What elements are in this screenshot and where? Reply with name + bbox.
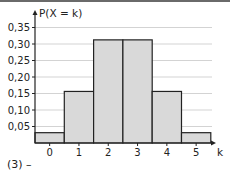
y-tick-label: 0,20 xyxy=(8,72,30,83)
bar-3 xyxy=(123,40,152,143)
y-tick-label: 0,15 xyxy=(8,88,30,99)
caption: (3) – xyxy=(7,158,32,171)
y-axis-arrow-icon xyxy=(33,10,38,15)
x-tick-label: 3 xyxy=(134,147,140,158)
x-axis-label: k xyxy=(217,146,224,158)
x-tick-label: 5 xyxy=(193,147,199,158)
bar-4 xyxy=(152,91,181,143)
y-tick-label: 0,05 xyxy=(8,121,30,132)
x-tick-label: 4 xyxy=(164,147,170,158)
bar-2 xyxy=(94,40,123,143)
y-axis-label: P(X = k) xyxy=(39,7,82,19)
y-ticks: 0,050,100,150,200,250,300,35 xyxy=(8,22,35,132)
y-tick-label: 0,25 xyxy=(8,55,30,66)
x-tick-label: 0 xyxy=(46,147,52,158)
histogram-chart: 0,050,100,150,200,250,300,35 012345 P(X … xyxy=(0,0,230,160)
x-axis-arrow-icon xyxy=(211,141,216,146)
y-tick-label: 0,10 xyxy=(8,105,30,116)
x-ticks: 012345 xyxy=(46,143,199,158)
bar-0 xyxy=(35,133,64,143)
bar-5 xyxy=(182,133,211,143)
bars xyxy=(35,40,211,143)
y-tick-label: 0,30 xyxy=(8,39,30,50)
x-tick-label: 2 xyxy=(105,147,111,158)
bar-1 xyxy=(64,91,93,143)
x-tick-label: 1 xyxy=(76,147,82,158)
y-tick-label: 0,35 xyxy=(8,22,30,33)
